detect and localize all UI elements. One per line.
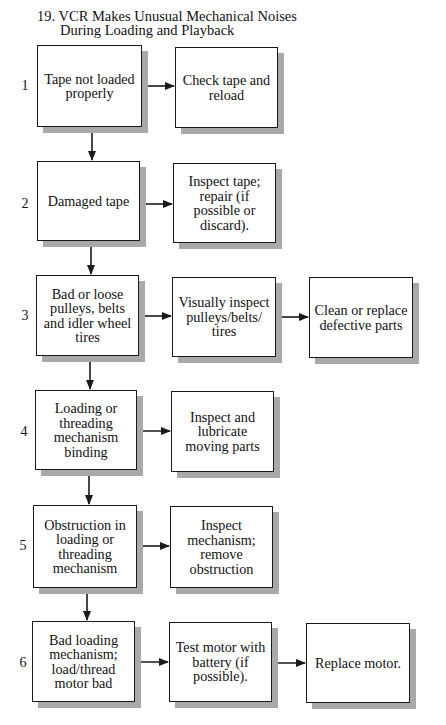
cause-text-6: Bad loading mechanism; load/thread motor…: [37, 633, 130, 691]
cause-text-2: Damaged tape: [48, 194, 130, 209]
action-text-6b: Replace motor.: [315, 656, 401, 671]
action-text-1a: Check tape and reload: [180, 73, 273, 102]
cause-box-1: Tape not loaded properly: [37, 45, 142, 127]
action-box-6a: Test motor with battery (if possible).: [169, 622, 272, 702]
cause-text-3: Bad or loose pulleys, belts and idler wh…: [41, 287, 134, 345]
cause-text-4: Loading or threading mechanism binding: [40, 401, 132, 459]
step-number-5: 5: [16, 538, 30, 554]
cause-box-4: Loading or threading mechanism binding: [35, 390, 137, 470]
action-text-5a: Inspect mechanism; remove obstruction: [175, 518, 268, 576]
step-number-4: 4: [17, 424, 31, 440]
step-number-6: 6: [16, 655, 30, 671]
cause-text-1: Tape not loaded properly: [42, 72, 137, 101]
action-box-6b: Replace motor.: [306, 623, 410, 703]
action-box-3b: Clean or replace defective parts: [309, 277, 413, 358]
action-text-4a: Inspect and lubricate moving parts: [176, 410, 269, 454]
action-text-3a: Visually inspect pulleys/belts/ tires: [177, 295, 271, 339]
cause-box-5: Obstruction in loading or threading mech…: [33, 505, 137, 588]
step-number-1: 1: [18, 78, 32, 94]
action-box-1a: Check tape and reload: [175, 47, 278, 128]
action-text-6a: Test motor with battery (if possible).: [174, 640, 267, 684]
cause-box-2: Damaged tape: [37, 161, 140, 241]
action-box-2a: Inspect tape; repair (if possible or dis…: [173, 163, 276, 243]
cause-box-3: Bad or loose pulleys, belts and idler wh…: [36, 275, 139, 356]
action-text-3b: Clean or replace defective parts: [314, 303, 408, 332]
cause-text-5: Obstruction in loading or threading mech…: [38, 518, 132, 576]
step-number-3: 3: [18, 308, 32, 324]
action-text-2a: Inspect tape; repair (if possible or dis…: [178, 174, 271, 232]
cause-box-6: Bad loading mechanism; load/thread motor…: [32, 621, 135, 702]
action-box-4a: Inspect and lubricate moving parts: [171, 391, 274, 472]
action-box-5a: Inspect mechanism; remove obstruction: [170, 506, 273, 588]
action-box-3a: Visually inspect pulleys/belts/ tires: [172, 277, 276, 357]
step-number-2: 2: [18, 196, 32, 212]
